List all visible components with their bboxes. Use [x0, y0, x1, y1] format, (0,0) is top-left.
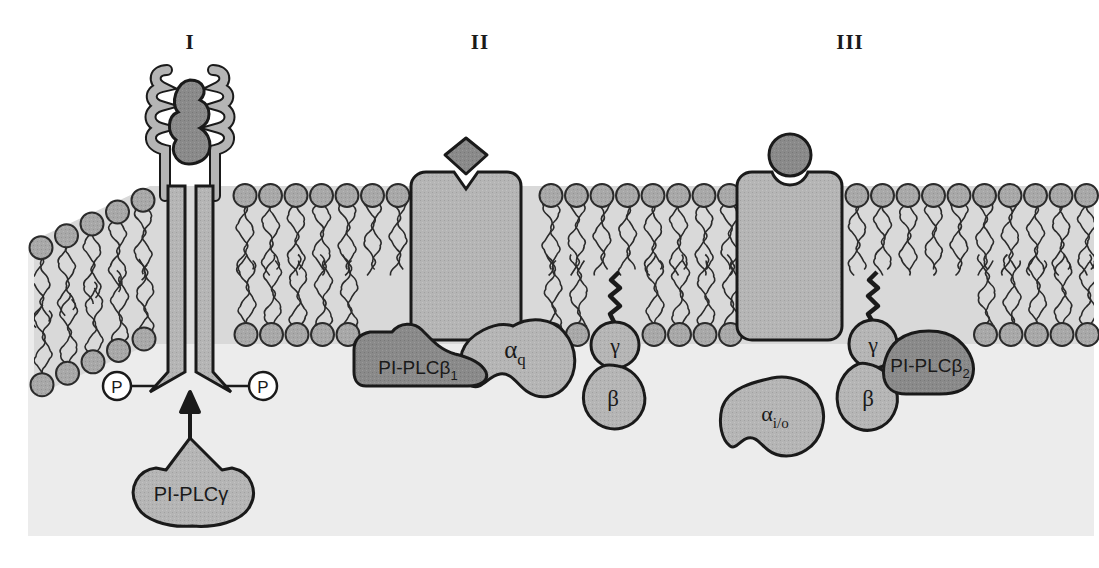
panel-numeral-ii: II — [471, 30, 489, 55]
lipid-head-group — [361, 184, 384, 207]
g-gamma-middle-label: γ — [609, 333, 620, 358]
pi-plc-gamma-label: PI-PLCγ — [154, 483, 228, 505]
lipid-head-group — [871, 184, 894, 207]
lipid-head-group — [133, 327, 156, 350]
gpcr-ii-receptor[interactable] — [411, 172, 521, 340]
phosphate-right-label: P — [257, 378, 268, 397]
lipid-head-group — [948, 184, 971, 207]
lipid-head-group — [234, 184, 257, 207]
lipid-head-group — [1024, 184, 1047, 207]
lipid-head-group — [897, 184, 920, 207]
lipid-head-group — [387, 184, 410, 207]
gpcr-iii-receptor[interactable] — [737, 172, 842, 340]
lipid-head-group — [642, 184, 665, 207]
lipid-head-group — [694, 323, 717, 346]
lipid-head-group — [1000, 323, 1023, 346]
lipid-head-group — [132, 189, 155, 212]
lipid-head-group — [30, 236, 53, 259]
lipid-head-group — [260, 323, 283, 346]
lipid-head-group — [310, 184, 333, 207]
lipid-head-group — [565, 184, 588, 207]
lipid-head-group — [286, 323, 309, 346]
lipid-head-group — [999, 184, 1022, 207]
lipid-head-group — [1076, 323, 1099, 346]
g-beta-middle-label: β — [607, 386, 619, 411]
lipid-head-group — [55, 224, 78, 247]
phosphate-left-label: P — [111, 378, 122, 397]
lipid-head-group — [616, 184, 639, 207]
figure-canvas: P P PI-PLCγ αq PI-PLCβ1 — [0, 0, 1099, 568]
lipid-head-group — [81, 212, 104, 235]
diamond-agonist-ligand[interactable] — [445, 138, 487, 174]
lipid-head-group — [311, 323, 334, 346]
lipid-head-group — [107, 339, 130, 362]
lipid-head-group — [336, 184, 359, 207]
lipid-head-group — [235, 323, 258, 346]
gpcr-iii-complex[interactable] — [737, 134, 842, 340]
panel-numeral-iii: III — [836, 30, 864, 55]
lipid-head-group — [1075, 184, 1098, 207]
gpcr-ii-complex[interactable] — [411, 138, 521, 340]
lipid-head-group — [259, 184, 282, 207]
lipid-head-group — [82, 350, 105, 373]
lipid-head-group — [693, 184, 716, 207]
lipid-head-group — [31, 373, 54, 396]
g-gamma-right-label: γ — [867, 332, 878, 357]
lipid-head-group — [846, 184, 869, 207]
round-agonist-ligand[interactable] — [769, 134, 811, 176]
lipid-head-group — [1051, 323, 1074, 346]
lipid-head-group — [667, 184, 690, 207]
lipid-head-group — [668, 323, 691, 346]
membrane-signalling-diagram: P P PI-PLCγ αq PI-PLCβ1 — [0, 0, 1099, 568]
panel-numeral-i: I — [185, 30, 194, 55]
lipid-head-group — [1025, 323, 1048, 346]
lipid-head-group — [1050, 184, 1073, 207]
g-beta-right-label: β — [862, 386, 874, 411]
lipid-head-group — [922, 184, 945, 207]
growth-factor-ligand[interactable] — [169, 80, 210, 164]
lipid-head-group — [56, 362, 79, 385]
lipid-head-group — [106, 201, 129, 224]
lipid-head-group — [540, 184, 563, 207]
lipid-head-group — [974, 323, 997, 346]
pi-plc-beta2-enzyme[interactable]: PI-PLCβ2 — [884, 331, 974, 394]
lipid-head-group — [591, 184, 614, 207]
lipid-head-group — [285, 184, 308, 207]
lipid-head-group — [643, 323, 666, 346]
lipid-head-group — [973, 184, 996, 207]
